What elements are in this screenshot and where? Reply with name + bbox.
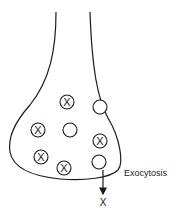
neurotransmitter-marker: X bbox=[34, 124, 42, 136]
neurotransmitter-marker: X bbox=[96, 135, 104, 147]
vesicle-empty bbox=[63, 123, 77, 137]
neurotransmitter-marker: X bbox=[37, 151, 45, 163]
neurotransmitter-marker: X bbox=[63, 96, 71, 108]
exocytosis-label: Exocytosis bbox=[124, 168, 167, 178]
released-neurotransmitter: X bbox=[100, 197, 107, 208]
vesicle-group: XXXXX bbox=[31, 95, 107, 175]
vesicle-empty bbox=[92, 155, 106, 169]
release-arrow bbox=[100, 170, 106, 194]
neurotransmitter-marker: X bbox=[60, 162, 68, 174]
synapse-diagram: XXXXX X bbox=[0, 0, 177, 217]
vesicle-empty bbox=[93, 100, 107, 114]
